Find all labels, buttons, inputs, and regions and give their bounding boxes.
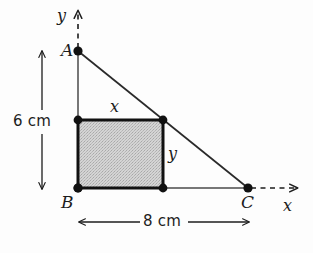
x-axis-label: x [283, 198, 292, 214]
y-axis-label: y [57, 8, 66, 24]
geometry-figure: y x A B C x y 6 cm 8 cm [0, 0, 313, 253]
vertex-label-b: B [61, 194, 74, 211]
vertex-label-a: A [61, 42, 73, 59]
rect-corner-dot-bottom-left [74, 184, 83, 193]
rect-corner-dot-top-left [74, 116, 83, 125]
rect-corner-dot-bottom-right [159, 184, 168, 193]
dimension-label-height: 6 cm [13, 114, 51, 129]
rectangle-width-label: x [110, 99, 119, 115]
vertex-label-c: C [241, 194, 254, 211]
dimension-label-base: 8 cm [143, 214, 181, 229]
shaded-rectangle [78, 120, 163, 188]
rectangle-height-label: y [168, 146, 177, 162]
rect-corner-dot-top-right [159, 116, 168, 125]
vertex-dot-a [73, 46, 82, 55]
